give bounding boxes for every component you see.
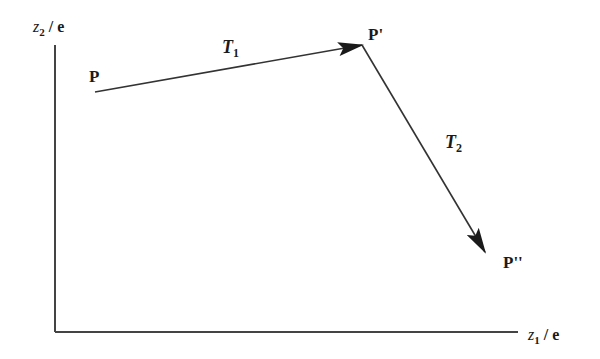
point-p-label: P bbox=[89, 67, 99, 86]
transform-t1-label: T1 bbox=[222, 37, 239, 60]
y-axis-label: z2 / e bbox=[32, 18, 64, 38]
x-axis-label: z1 / e bbox=[527, 326, 559, 346]
diagram-canvas: z2 / e z1 / e P P' P'' T1 T2 bbox=[0, 0, 600, 359]
point-p-double-prime-label: P'' bbox=[503, 253, 523, 272]
vector-t2 bbox=[362, 45, 485, 252]
point-p-prime-label: P' bbox=[368, 25, 383, 44]
transform-t2-label: T2 bbox=[445, 132, 462, 155]
